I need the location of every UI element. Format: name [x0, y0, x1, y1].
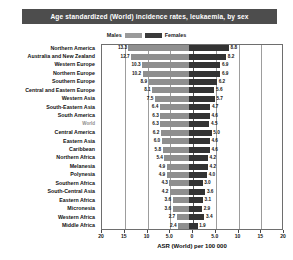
legend-label-females: Females: [165, 33, 187, 38]
value-label-female: 5.0: [213, 130, 220, 135]
bar-male: [167, 164, 189, 170]
bar-female: [189, 172, 207, 178]
bar-female: [189, 96, 215, 102]
bar-female: [189, 206, 202, 212]
value-label-female: 4.5: [211, 122, 218, 127]
value-label-male: 7.5: [147, 97, 154, 102]
table-row: Southern Europe8.96.2: [0, 78, 293, 86]
row-bars: 8.96.2: [98, 78, 280, 86]
row-bars: 6.44.7: [98, 103, 280, 111]
value-label-female: 6.9: [222, 63, 229, 68]
category-label: Central America: [0, 130, 98, 135]
bar-female: [189, 54, 226, 60]
value-label-female: 8.2: [228, 54, 235, 59]
category-label: Polynesia: [0, 172, 98, 177]
value-label-female: 3.1: [205, 198, 212, 203]
category-label: South-Eastern Asia: [0, 105, 98, 110]
x-axis-tick-label: 5.0: [211, 233, 218, 239]
value-label-male: 6.4: [152, 105, 159, 110]
bar-male: [160, 121, 189, 127]
value-label-male: 5.4: [156, 156, 163, 161]
bar-male: [162, 138, 189, 144]
row-bars: 6.25.0: [98, 129, 280, 137]
row-bars: 6.34.5: [98, 120, 280, 128]
table-row: Melanesia4.94.2: [0, 162, 293, 170]
table-row: Eastern Africa3.63.1: [0, 196, 293, 204]
value-label-female: 2.9: [204, 206, 211, 211]
table-row: Northern Africa5.44.2: [0, 154, 293, 162]
value-label-male: 4.2: [162, 190, 169, 195]
category-label: Southern Africa: [0, 181, 98, 186]
bar-male: [155, 96, 189, 102]
row-bars: 3.63.1: [98, 196, 280, 204]
value-label-female: 4.0: [209, 173, 216, 178]
value-label-female: 4.2: [210, 164, 217, 169]
table-row: South-Eastern Asia6.44.7: [0, 103, 293, 111]
table-row: Western Asia7.55.7: [0, 95, 293, 103]
value-label-female: 3.4: [206, 215, 213, 220]
bar-male: [152, 87, 189, 93]
bar-female: [189, 104, 210, 110]
value-label-female: 3.0: [204, 181, 211, 186]
row-bars: 4.23.6: [98, 188, 280, 196]
category-label: Northern Africa: [0, 155, 98, 160]
category-label: Northern Europe: [0, 71, 98, 76]
value-label-male: 8.1: [144, 88, 151, 93]
x-axis-tick-label: 5.0: [166, 233, 173, 239]
value-label-female: 5.6: [216, 88, 223, 93]
bar-male: [131, 54, 189, 60]
value-label-male: 10.3: [132, 63, 141, 68]
bar-female: [189, 155, 208, 161]
category-label: Micronesia: [0, 206, 98, 211]
table-row: Western Europe10.36.9: [0, 61, 293, 69]
value-label-male: 8.9: [140, 80, 147, 85]
category-label: Caribbean: [0, 147, 98, 152]
x-axis-tick-label: 0: [191, 233, 194, 239]
bar-male: [177, 214, 189, 220]
bar-male: [169, 180, 189, 186]
category-label: Australia and New Zealand: [0, 54, 98, 59]
x-axis-tick-label: 15: [257, 233, 263, 239]
value-label-female: 3.6: [207, 190, 214, 195]
value-label-female: 5.7: [216, 97, 223, 102]
table-row: Northern Europe10.26.9: [0, 69, 293, 77]
row-bars: 12.78.2: [98, 52, 280, 60]
x-axis-tick-label: 20: [280, 233, 286, 239]
value-label-female: 4.7: [212, 105, 219, 110]
bar-male: [164, 155, 189, 161]
bar-female: [189, 62, 220, 68]
bar-male: [161, 130, 189, 136]
bar-female: [189, 138, 210, 144]
row-bars: 6.34.6: [98, 112, 280, 120]
table-row: Eastern Asia6.04.6: [0, 137, 293, 145]
bar-female: [189, 79, 217, 85]
page-title: Age standardized (World) incidence rates…: [50, 13, 248, 20]
row-bars: 4.94.0: [98, 171, 280, 179]
value-label-male: 4.9: [159, 164, 166, 169]
value-label-male: 6.2: [153, 130, 160, 135]
table-row: Central and Eastern Europe8.15.6: [0, 86, 293, 94]
bar-male: [149, 79, 189, 85]
table-row: Australia and New Zealand12.78.2: [0, 52, 293, 60]
bar-male: [167, 172, 189, 178]
table-row: South America6.34.6: [0, 112, 293, 120]
bar-male: [178, 223, 189, 229]
row-bars: 2.73.4: [98, 213, 280, 221]
value-label-male: 6.0: [154, 139, 161, 144]
table-row: Micronesia3.62.9: [0, 205, 293, 213]
row-bars: 7.55.7: [98, 95, 280, 103]
row-bars: 10.26.9: [98, 69, 280, 77]
table-row: Caribbean5.84.6: [0, 145, 293, 153]
bar-female: [189, 189, 205, 195]
category-label: South-Central Asia: [0, 189, 98, 194]
category-label: Eastern Africa: [0, 198, 98, 203]
x-axis: 2015105.005.0101520: [101, 230, 283, 242]
chart-legend: Males Females: [0, 33, 293, 38]
table-row: Northern America13.38.8: [0, 44, 293, 52]
value-label-female: 8.8: [231, 46, 238, 51]
x-axis-tick-label: 20: [98, 233, 104, 239]
bar-male: [128, 45, 189, 51]
bar-female: [189, 71, 220, 77]
row-bars: 4.33.0: [98, 179, 280, 187]
value-label-female: 4.6: [211, 139, 218, 144]
